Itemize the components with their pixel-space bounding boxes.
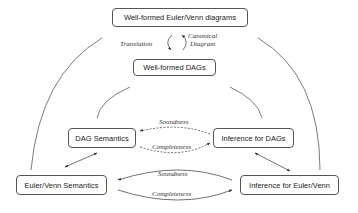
node-well-formed-dags: Well-formed DAGs — [133, 59, 216, 76]
node-dag-semantics: DAG Semantics — [68, 128, 136, 148]
node-inference-dags: Inference for DAGs — [213, 128, 294, 148]
inner-soundness-arrow — [140, 127, 210, 134]
outer-arc-right — [258, 38, 320, 170]
node-label: DAG Semantics — [75, 134, 128, 143]
label-canonical-diagram: Canonical Diagram — [188, 32, 217, 48]
node-label: Well-formed Euler/Venn diagrams — [124, 13, 236, 22]
canonical-arrow — [182, 35, 186, 50]
label-diagram: Diagram — [188, 40, 217, 48]
outer-arc-left — [31, 38, 102, 170]
node-inference-euler-venn: Inference for Euler/Venn — [240, 175, 339, 195]
node-euler-venn-semantics: Euler/Venn Semantics — [16, 175, 107, 195]
label-canonical: Canonical — [188, 32, 217, 40]
label-translation: Translation — [120, 40, 152, 48]
inner-arc-right — [230, 87, 262, 118]
dag-euler-semantics-arrow — [65, 153, 97, 167]
label-inner-completeness: Completeness — [152, 143, 191, 151]
inner-arc-left — [97, 87, 130, 118]
node-label: Inference for Euler/Venn — [249, 181, 330, 190]
node-label: Well-formed DAGs — [143, 63, 205, 72]
node-label: Euler/Venn Semantics — [25, 181, 99, 190]
translation-arrow — [168, 35, 172, 50]
label-outer-completeness: Completeness — [152, 190, 191, 198]
label-inner-soundness: Soundness — [159, 118, 189, 126]
node-well-formed-euler-venn: Well-formed Euler/Venn diagrams — [112, 8, 248, 27]
label-outer-soundness: Soundness — [158, 170, 188, 178]
dag-euler-inference-arrow — [255, 153, 290, 171]
node-label: Inference for DAGs — [221, 134, 285, 143]
